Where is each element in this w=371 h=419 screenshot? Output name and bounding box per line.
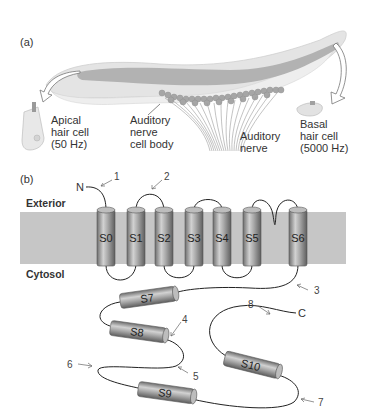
svg-text:S1: S1 — [129, 232, 142, 244]
callout-2: 2 — [164, 171, 170, 182]
helix-s2: S2 — [155, 207, 173, 266]
panel-b: (b) Exterior Cytosol — [20, 171, 346, 408]
helix-s7: S7 — [119, 286, 180, 309]
nerve-label-1: Auditory — [240, 130, 281, 142]
svg-text:S3: S3 — [187, 232, 200, 244]
callout-6: 6 — [67, 359, 73, 370]
callout-1: 1 — [114, 171, 120, 182]
svg-text:S4: S4 — [215, 232, 228, 244]
exterior-label: Exterior — [26, 197, 66, 209]
svg-text:S6: S6 — [291, 232, 304, 244]
callout-7: 7 — [318, 397, 324, 408]
n-terminus-label: N — [76, 181, 84, 193]
nerve-label-2: nerve — [240, 142, 268, 154]
cytosolic-helices: S7 S8 S9 S10 — [109, 286, 283, 405]
svg-text:S9: S9 — [157, 386, 172, 400]
svg-text:S5: S5 — [245, 232, 258, 244]
svg-text:S0: S0 — [99, 232, 112, 244]
helix-s10: S10 — [223, 351, 284, 380]
svg-text:S2: S2 — [157, 232, 170, 244]
basal-label-1: Basal — [300, 118, 328, 130]
diagram-canvas: (a) — [0, 0, 371, 419]
apical-label-3: (50 Hz) — [51, 138, 87, 150]
panel-b-label: (b) — [20, 173, 33, 185]
basal-label-3: (5000 Hz) — [300, 142, 348, 154]
callout-3: 3 — [314, 285, 320, 296]
apical-label-2: hair cell — [51, 126, 89, 138]
apical-label-1: Apical — [51, 114, 81, 126]
c-terminus-label: C — [298, 307, 306, 319]
apical-hair-cell-icon — [22, 102, 44, 150]
basal-hair-cell-icon — [297, 101, 322, 116]
helix-s1: S1 — [127, 207, 145, 266]
panel-a-label: (a) — [20, 36, 33, 48]
helix-s6: S6 — [289, 207, 307, 266]
callout-8: 8 — [248, 299, 254, 310]
cell-body-label-1: Auditory — [130, 114, 171, 126]
callout-5: 5 — [193, 371, 199, 382]
callout-4: 4 — [182, 314, 188, 325]
helix-s3: S3 — [185, 207, 203, 266]
helix-s8: S8 — [109, 320, 170, 343]
cell-body-label-3: cell body — [130, 138, 174, 150]
helix-s0: S0 — [97, 207, 115, 266]
svg-text:S8: S8 — [129, 325, 144, 339]
svg-text:S7: S7 — [139, 291, 154, 305]
cell-body-label-2: nerve — [130, 126, 158, 138]
basal-label-2: hair cell — [300, 130, 338, 142]
panel-a: (a) — [20, 31, 348, 154]
helix-s9: S9 — [137, 381, 198, 404]
helix-s5: S5 — [243, 207, 261, 266]
helix-s4: S4 — [213, 207, 231, 266]
cytosol-label: Cytosol — [26, 268, 65, 280]
